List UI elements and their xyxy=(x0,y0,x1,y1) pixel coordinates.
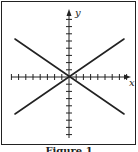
y-axis-arrow-icon xyxy=(67,9,72,16)
y-axis xyxy=(66,9,72,138)
figure-caption: Figure 1 xyxy=(0,146,138,152)
coordinate-plane: x y xyxy=(0,0,138,152)
x-axis-label: x xyxy=(129,77,135,88)
y-axis-label: y xyxy=(74,7,81,18)
